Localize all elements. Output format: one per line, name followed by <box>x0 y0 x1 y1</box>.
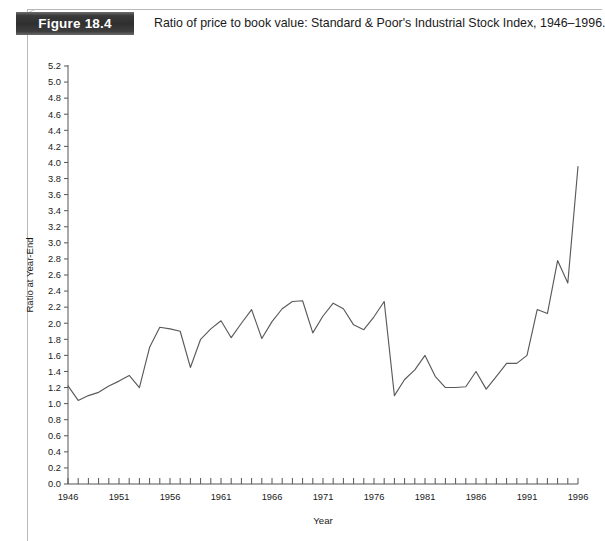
svg-text:1961: 1961 <box>211 492 232 502</box>
svg-text:3.2: 3.2 <box>48 222 61 232</box>
svg-text:1.0: 1.0 <box>48 399 61 409</box>
svg-text:1966: 1966 <box>262 492 283 502</box>
svg-text:1991: 1991 <box>517 492 538 502</box>
svg-text:1996: 1996 <box>568 492 589 502</box>
svg-text:3.6: 3.6 <box>48 190 61 200</box>
svg-text:1.2: 1.2 <box>48 383 61 393</box>
svg-text:0.2: 0.2 <box>48 463 61 473</box>
svg-text:1.8: 1.8 <box>48 335 61 345</box>
x-axis-title: Year <box>313 515 333 526</box>
svg-text:2.4: 2.4 <box>48 286 61 296</box>
svg-text:1981: 1981 <box>415 492 436 502</box>
x-axis: 1946195119561961196619711976198119861991… <box>58 478 589 502</box>
svg-text:1946: 1946 <box>58 492 79 502</box>
svg-text:1951: 1951 <box>109 492 130 502</box>
svg-text:4.4: 4.4 <box>48 126 61 136</box>
svg-text:2.6: 2.6 <box>48 270 61 280</box>
svg-text:1971: 1971 <box>313 492 334 502</box>
svg-text:0.4: 0.4 <box>48 447 61 457</box>
svg-text:1.6: 1.6 <box>48 351 61 361</box>
svg-text:5.0: 5.0 <box>48 77 61 87</box>
svg-text:0.6: 0.6 <box>48 431 61 441</box>
svg-text:4.8: 4.8 <box>48 93 61 103</box>
y-axis-title: Ratio at Year-End <box>24 237 35 312</box>
svg-text:4.2: 4.2 <box>48 142 61 152</box>
svg-text:3.0: 3.0 <box>48 238 61 248</box>
svg-text:1.4: 1.4 <box>48 367 61 377</box>
svg-text:0.8: 0.8 <box>48 415 61 425</box>
series-line-price-to-book <box>68 166 578 400</box>
y-axis: 0.00.20.40.60.81.01.21.41.61.82.02.22.42… <box>48 61 68 489</box>
svg-text:1956: 1956 <box>160 492 181 502</box>
svg-text:3.8: 3.8 <box>48 174 61 184</box>
svg-text:3.4: 3.4 <box>48 206 61 216</box>
svg-text:4.0: 4.0 <box>48 158 61 168</box>
svg-text:2.0: 2.0 <box>48 319 61 329</box>
svg-text:0.0: 0.0 <box>48 479 61 489</box>
svg-text:5.2: 5.2 <box>48 61 61 71</box>
svg-text:1986: 1986 <box>466 492 487 502</box>
svg-text:4.6: 4.6 <box>48 110 61 120</box>
svg-text:2.2: 2.2 <box>48 302 61 312</box>
svg-text:1976: 1976 <box>364 492 385 502</box>
svg-text:2.8: 2.8 <box>48 254 61 264</box>
